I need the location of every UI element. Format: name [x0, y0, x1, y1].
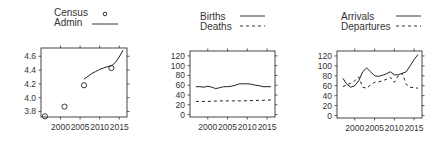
x-tick-label: 2015 — [110, 122, 129, 132]
plot-area: 20002005201020153.84.04.24.44.6 — [24, 46, 129, 133]
y-tick-label: 4.4 — [24, 65, 36, 75]
chart-figure: Census Admin 20002005201020153.84.04.24.… — [0, 0, 444, 152]
legend: Arrivals Departures — [341, 11, 421, 32]
y-tick-label: 100 — [171, 61, 185, 71]
x-tick-label: 2000 — [51, 122, 70, 132]
y-tick-label: 4.2 — [24, 79, 36, 89]
data-point-census — [42, 114, 47, 119]
legend-label-admin: Admin — [54, 17, 82, 28]
chart-canvas: Census Admin 20002005201020153.84.04.24.… — [0, 0, 444, 152]
y-tick-label: 100 — [318, 61, 332, 71]
y-tick-label: 80 — [176, 70, 186, 80]
legend: Census Admin — [54, 7, 118, 28]
y-tick-label: 4.6 — [24, 51, 36, 61]
x-tick-label: 2005 — [71, 122, 90, 132]
legend-marker-circle-icon — [103, 12, 107, 16]
x-tick-label: 2000 — [198, 122, 217, 132]
x-tick-label: 2015 — [258, 122, 277, 132]
x-tick-label: 2010 — [238, 122, 257, 132]
data-point-census — [81, 83, 86, 88]
x-tick-label: 2000 — [345, 123, 364, 133]
x-tick-label: 2010 — [385, 123, 404, 133]
legend-label-deaths: Deaths — [200, 21, 232, 32]
x-tick-label: 2005 — [218, 122, 237, 132]
plot-area: 2000200520102015020406080100120 — [171, 49, 278, 133]
series-line-arrivals — [343, 55, 418, 88]
y-tick-label: 40 — [323, 91, 333, 101]
y-tick-label: 120 — [171, 51, 185, 61]
y-tick-label: 0 — [327, 111, 332, 121]
y-tick-label: 60 — [176, 80, 186, 90]
y-tick-label: 20 — [323, 101, 333, 111]
y-tick-label: 60 — [323, 81, 333, 91]
y-tick-label: 4.0 — [24, 93, 36, 103]
data-point-census — [62, 104, 67, 109]
y-tick-label: 20 — [176, 100, 186, 110]
series-line-admin — [84, 50, 123, 79]
x-tick-label: 2005 — [365, 123, 384, 133]
series-line-births — [196, 84, 271, 89]
series-line-deaths — [196, 100, 271, 102]
y-tick-label: 0 — [180, 110, 185, 120]
panel-natural-change: Births Deaths 20002005201020150204060801… — [171, 11, 278, 132]
y-tick-label: 120 — [318, 51, 332, 61]
plot-frame — [337, 51, 422, 118]
y-tick-label: 3.8 — [24, 106, 36, 116]
legend-label-departures: Departures — [341, 21, 390, 32]
x-tick-label: 2015 — [405, 123, 424, 133]
panel-migration: Arrivals Departures 20002005201020150204… — [318, 11, 425, 133]
plot-frame — [190, 51, 275, 117]
x-tick-label: 2010 — [90, 122, 109, 132]
panel-population: Census Admin 20002005201020153.84.04.24.… — [24, 7, 129, 132]
plot-area: 2000200520102015020406080100120 — [318, 49, 425, 134]
y-tick-label: 80 — [323, 71, 333, 81]
legend: Births Deaths — [200, 11, 265, 32]
y-tick-label: 40 — [176, 90, 186, 100]
